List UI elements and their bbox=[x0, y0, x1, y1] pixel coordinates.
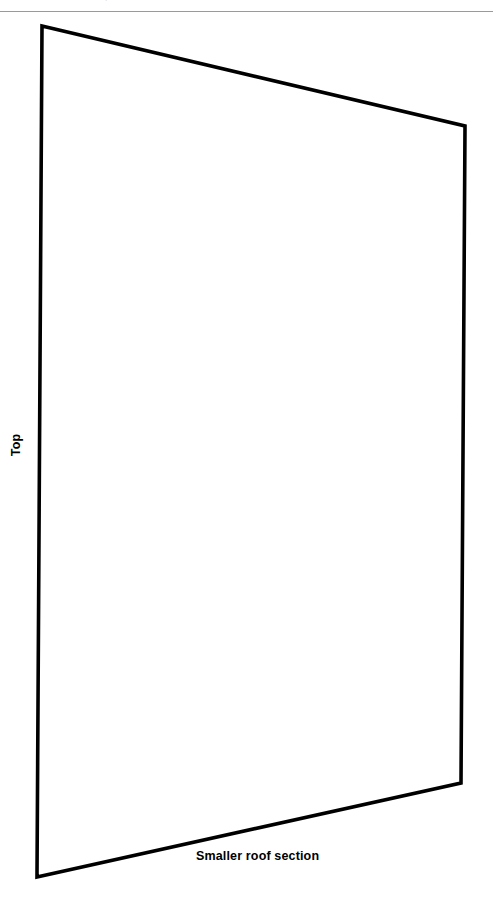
roof-section-figure bbox=[0, 0, 493, 898]
roof-section-outline bbox=[37, 26, 465, 877]
label-top-edge-text: Top bbox=[9, 434, 23, 456]
diagram-page: ˊ Top Smaller roof section bbox=[0, 0, 493, 898]
label-top-edge: Top bbox=[9, 428, 23, 462]
label-smaller-roof-section: Smaller roof section bbox=[196, 849, 319, 863]
